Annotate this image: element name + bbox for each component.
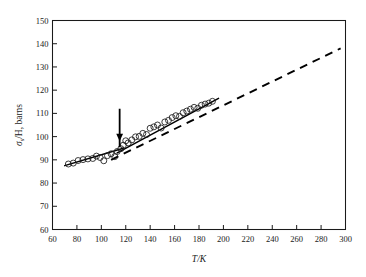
data-point xyxy=(184,108,190,114)
x-tick-label: 260 xyxy=(290,234,303,244)
data-point xyxy=(187,106,193,112)
x-tick-label: 100 xyxy=(95,234,108,244)
data-point xyxy=(151,124,157,130)
chart-figure: 60708090100110120130140150 6080100120140… xyxy=(0,0,366,277)
y-tick-label: 120 xyxy=(36,85,49,95)
data-point xyxy=(162,119,168,125)
x-tick-label: 220 xyxy=(241,234,254,244)
y-tick-label: 100 xyxy=(36,132,49,142)
x-axis: 6080100120140160180200220240260280300 xyxy=(48,225,352,244)
y-tick-label: 110 xyxy=(36,108,48,118)
annotation-layer xyxy=(65,48,341,165)
x-tick-label: 240 xyxy=(266,234,279,244)
svg-text:σs/H, barns: σs/H, barns xyxy=(14,104,25,146)
chart-canvas: 60708090100110120130140150 6080100120140… xyxy=(0,0,366,277)
x-tick-label: 140 xyxy=(144,234,157,244)
y-tick-label: 140 xyxy=(36,39,49,49)
y-axis-units: /H, barns xyxy=(14,104,24,139)
data-point xyxy=(180,110,186,116)
x-tick-label: 80 xyxy=(73,234,82,244)
plot-frame xyxy=(53,21,346,230)
y-tick-label: 60 xyxy=(40,225,49,235)
x-tick-label: 160 xyxy=(168,234,181,244)
x-tick-label: 280 xyxy=(315,234,328,244)
y-axis-title: σs/H, barns xyxy=(14,104,25,146)
transition-arrow xyxy=(116,109,123,148)
y-tick-label: 150 xyxy=(36,16,49,26)
x-axis-title: T/K xyxy=(192,254,207,264)
x-tick-label: 60 xyxy=(48,234,57,244)
y-tick-label: 130 xyxy=(36,62,49,72)
data-series-measured-cross-section xyxy=(65,98,215,167)
x-tick-label: 300 xyxy=(339,234,352,244)
y-tick-label: 80 xyxy=(40,178,49,188)
y-axis: 60708090100110120130140150 xyxy=(36,16,57,235)
extrapolated-trend xyxy=(111,48,341,159)
x-tick-label: 120 xyxy=(119,234,132,244)
x-tick-label: 180 xyxy=(193,234,206,244)
y-tick-label: 90 xyxy=(40,155,49,165)
data-point xyxy=(147,125,153,131)
y-tick-label: 70 xyxy=(40,201,49,211)
arrow-head xyxy=(116,134,123,142)
x-tick-label: 200 xyxy=(217,234,230,244)
